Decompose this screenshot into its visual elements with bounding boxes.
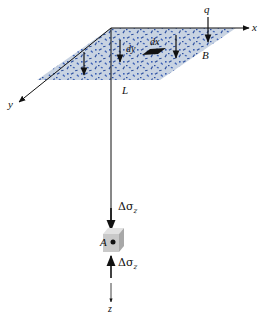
z-axis-label: z: [107, 303, 112, 314]
x-axis-label: x: [251, 21, 257, 33]
point-a-label: A: [99, 236, 107, 248]
q-label: q: [204, 3, 210, 15]
stress-label-top: Δσz: [118, 200, 137, 215]
point-a-dot: [111, 240, 116, 245]
dy-label: dy: [126, 43, 136, 54]
l-label: L: [121, 84, 128, 96]
stress-diagram: q x y B L dx dy Δσz A Δσz z: [0, 0, 267, 314]
b-label: B: [202, 49, 209, 61]
y-axis-label: y: [7, 98, 13, 110]
dx-label: dx: [150, 36, 160, 47]
stress-label-bottom: Δσz: [118, 256, 137, 271]
